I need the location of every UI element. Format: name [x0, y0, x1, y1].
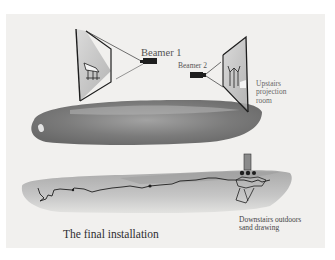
beamer-2-label: Beamer 2 — [178, 62, 207, 70]
beam-line — [206, 76, 223, 87]
downstairs-label-line: sand drawing — [239, 224, 301, 232]
diagram-title: The final installation — [63, 228, 159, 241]
beam-line — [116, 64, 143, 79]
camera-icon — [190, 72, 206, 78]
downstairs-label: Downstairs outdoors sand drawing — [239, 216, 301, 233]
upstairs-label: Upstairs projection room — [256, 80, 286, 105]
projection-screen-1 — [76, 29, 111, 101]
beamer-1-label: Beamer 1 — [141, 47, 182, 59]
camera-icon — [140, 58, 157, 64]
projection-screen-2 — [223, 37, 248, 112]
downstairs-sand-wash — [22, 170, 292, 213]
upstairs-ink-wash — [31, 100, 262, 145]
upstairs-label-line: room — [256, 97, 286, 105]
beam-line — [206, 62, 221, 74]
